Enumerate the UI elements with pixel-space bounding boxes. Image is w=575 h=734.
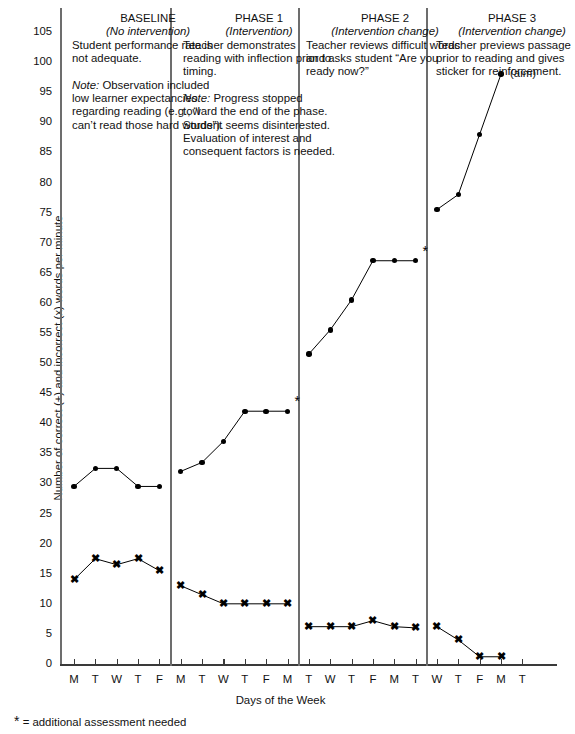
y-tick-label: 20	[22, 538, 52, 549]
data-point-incorrect: ✖	[219, 599, 228, 608]
data-point-incorrect: ✖	[432, 622, 441, 631]
x-tick	[288, 659, 289, 666]
data-point-correct	[221, 439, 226, 444]
y-tick-label: 5	[22, 628, 52, 639]
x-tick-label: F	[257, 673, 275, 685]
x-tick	[159, 659, 160, 666]
data-point-incorrect: ✖	[304, 622, 313, 631]
x-tick	[437, 659, 438, 666]
x-tick-label: T	[407, 673, 425, 685]
footnote: * = additional assessment needed	[14, 713, 186, 729]
x-tick-label: W	[321, 673, 339, 685]
y-tick-label: 10	[22, 598, 52, 609]
series-line-incorrect	[437, 627, 501, 657]
x-tick-label: T	[193, 673, 211, 685]
data-point-incorrect: ✖	[390, 622, 399, 631]
data-point-correct	[328, 327, 333, 332]
phase-header-phase3: PHASE 3(Intervention change)Teacher prev…	[436, 12, 575, 79]
series-line-correct	[437, 74, 501, 209]
data-point-incorrect: ✖	[283, 599, 292, 608]
y-tick-label: 15	[22, 568, 52, 579]
data-point-correct	[199, 460, 204, 465]
data-point-incorrect: ✖	[262, 599, 271, 608]
data-point-correct	[349, 297, 354, 302]
x-tick	[202, 659, 203, 666]
x-tick-label: M	[65, 673, 83, 685]
phase-note: Note: Progress stopped toward the end of…	[183, 92, 335, 159]
x-tick	[266, 659, 267, 666]
x-tick	[416, 659, 417, 666]
phase-description: Teacher previews passage prior to readin…	[436, 39, 575, 79]
y-tick-label: 40	[22, 417, 52, 428]
x-tick-label: M	[492, 673, 510, 685]
y-tick-label: 50	[22, 357, 52, 368]
data-point-incorrect: ✖	[134, 554, 143, 563]
y-tick-label: 65	[22, 267, 52, 278]
x-tick-label: T	[513, 673, 531, 685]
data-point-correct	[93, 466, 98, 471]
x-tick	[245, 659, 246, 666]
data-point-correct	[263, 409, 268, 414]
data-point-incorrect: ✖	[326, 622, 335, 631]
x-tick-label: T	[300, 673, 318, 685]
x-axis-title: Days of the Week	[0, 694, 561, 706]
y-tick-label: 95	[22, 86, 52, 97]
x-tick-label: T	[236, 673, 254, 685]
y-tick-label: 0	[22, 658, 52, 669]
y-tick-label: 45	[22, 387, 52, 398]
x-tick-label: W	[108, 673, 126, 685]
x-tick	[480, 659, 481, 666]
data-point-incorrect: ✖	[454, 635, 463, 644]
x-tick-label: F	[150, 673, 168, 685]
data-point-incorrect: ✖	[176, 581, 185, 590]
plot-area: ✖✖✖✖✖✖✖✖✖✖✖✖✖✖✖✖✖✖✖✖✖ MTWTFMTWTFMTWTFMTW…	[60, 8, 557, 666]
x-tick	[352, 659, 353, 666]
data-point-correct	[370, 258, 375, 263]
x-tick-label: M	[172, 673, 190, 685]
y-tick-label: 90	[22, 116, 52, 127]
data-point-correct	[242, 409, 247, 414]
data-point-incorrect: ✖	[240, 599, 249, 608]
footnote-text: = additional assessment needed	[23, 716, 187, 728]
y-tick-label: 30	[22, 477, 52, 488]
aim-label: (aim)	[510, 67, 536, 79]
x-tick	[309, 659, 310, 666]
x-tick-label: T	[449, 673, 467, 685]
x-tick-label: M	[385, 673, 403, 685]
x-tick	[501, 659, 502, 666]
y-tick-label: 105	[22, 26, 52, 37]
x-tick-label: M	[279, 673, 297, 685]
x-tick	[74, 659, 75, 666]
x-tick-label: T	[343, 673, 361, 685]
data-point-correct	[434, 207, 439, 212]
y-tick-label: 35	[22, 447, 52, 458]
x-tick	[95, 659, 96, 666]
x-tick-label: F	[364, 673, 382, 685]
data-point-incorrect: ✖	[347, 622, 356, 631]
data-point-incorrect: ✖	[112, 560, 121, 569]
data-point-incorrect: ✖	[368, 616, 377, 625]
data-point-incorrect: ✖	[198, 590, 207, 599]
x-tick-label: W	[428, 673, 446, 685]
data-point-incorrect: ✖	[70, 575, 79, 584]
phase1-asterisk: *	[295, 396, 300, 406]
phase-note-lead: Note:	[72, 79, 99, 91]
y-tick-label: 60	[22, 297, 52, 308]
footnote-star: *	[14, 713, 19, 729]
y-tick-label: 75	[22, 207, 52, 218]
x-tick	[181, 659, 182, 666]
data-point-correct	[135, 484, 140, 489]
y-tick-label: 25	[22, 508, 52, 519]
y-tick-label: 55	[22, 327, 52, 338]
y-tick-label: 80	[22, 177, 52, 188]
series-line-correct	[309, 261, 416, 354]
x-tick-label: T	[86, 673, 104, 685]
y-tick-label: 100	[22, 56, 52, 67]
phase-note-lead: Note:	[183, 92, 210, 104]
phase2-asterisk: *	[423, 246, 428, 256]
x-tick	[373, 659, 374, 666]
x-tick-label: W	[214, 673, 232, 685]
data-point-incorrect: ✖	[155, 566, 164, 575]
series-line-correct	[181, 411, 288, 471]
